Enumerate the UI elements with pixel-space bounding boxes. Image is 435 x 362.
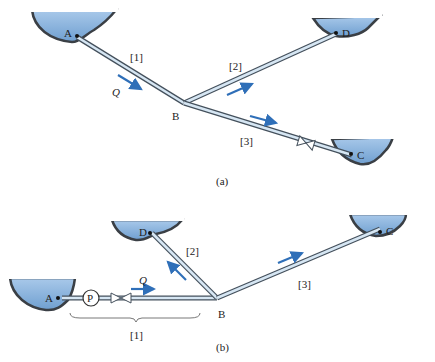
pipe-label-3-b: [3] [298, 278, 311, 290]
point-c-dot-b [378, 230, 382, 234]
pipe-label-1: [1] [130, 51, 143, 63]
reservoir-a [30, 8, 118, 42]
valve-icon-b [111, 293, 131, 303]
figure-a: A D C B [1] [2] [3] Q (a) [30, 8, 396, 188]
label-d-b: D [139, 226, 147, 238]
figure-b: P A D C B [1] [2] [3] Q (b) [8, 210, 410, 354]
label-a-b: A [45, 292, 53, 304]
pipe-2-a [184, 34, 336, 103]
pipe-2-b [152, 233, 217, 298]
pipe-label-2-b: [2] [186, 245, 199, 257]
label-c-b: C [386, 225, 393, 237]
point-d-dot [334, 31, 338, 35]
pipe-label-1-b: [1] [130, 329, 143, 341]
flow-arrow-2 [227, 84, 252, 95]
point-c-dot [349, 152, 353, 156]
point-d-dot-b [148, 231, 152, 235]
flow-label-q: Q [112, 86, 120, 98]
flow-label-q-b: Q [139, 274, 147, 286]
pump-icon: P [83, 290, 99, 306]
label-b-b: B [218, 308, 225, 320]
pipe-label-2: [2] [229, 60, 242, 72]
label-d: D [342, 27, 350, 39]
pipe-network-diagram: A D C B [1] [2] [3] Q (a) [0, 0, 435, 362]
pipe-1-a [77, 37, 184, 103]
pipe-3-a [184, 103, 352, 155]
pump-label: P [87, 292, 93, 304]
point-a-dot-b [56, 296, 60, 300]
point-a-dot [75, 34, 79, 38]
label-b: B [172, 110, 179, 122]
reservoir-b-a [8, 274, 78, 310]
reservoir-b-d [110, 216, 184, 240]
pipe-label-3: [3] [240, 135, 253, 147]
label-c: C [357, 149, 364, 161]
label-a: A [64, 27, 72, 39]
valve-icon [297, 136, 315, 150]
pipe-1-brace [70, 313, 200, 322]
caption-a: (a) [216, 175, 229, 188]
caption-b: (b) [216, 341, 229, 354]
flow-arrow-3 [250, 116, 276, 123]
